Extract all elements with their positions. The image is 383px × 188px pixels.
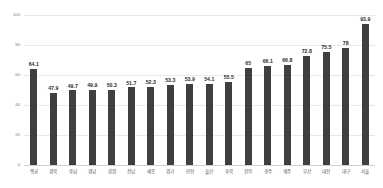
bar[interactable]: 93.9 [362,24,369,165]
bar-group: 53.9인천 [180,15,200,165]
bar-group: 52.3세종 [141,15,161,165]
bar[interactable]: 66.8 [284,65,291,165]
x-axis-category-label: 충남 [69,170,77,175]
bar-group: 66.8제주 [278,15,298,165]
bar-group: 65전북 [239,15,259,165]
y-axis-tick-label: 20 [15,133,20,137]
x-axis-category-label: 세종 [147,170,155,175]
bar-value-label: 54.1 [204,77,214,82]
bar[interactable]: 72.8 [303,56,310,165]
bar-value-label: 66.1 [263,59,273,64]
bar-value-label: 66.8 [282,58,292,63]
x-axis-category-label: 서울 [361,170,369,175]
bar-group: 53.3경기 [161,15,181,165]
bar-value-label: 52.3 [146,80,156,85]
bar-group: 66.1광주 [258,15,278,165]
bar-group: 49.9경남 [83,15,103,165]
x-axis-category-label: 경남 [88,170,96,175]
x-axis-category-label: 전남 [127,170,135,175]
bar-value-label: 51.7 [126,81,136,86]
bar-group: 51.7전남 [122,15,142,165]
x-axis-category-label: 강원 [108,170,116,175]
bar-group: 50.3강원 [102,15,122,165]
bar[interactable]: 51.7 [128,87,135,165]
bar[interactable]: 55.5 [225,82,232,165]
bar[interactable]: 53.3 [167,85,174,165]
bar[interactable]: 64.1 [30,69,37,165]
bar[interactable]: 49.9 [89,90,96,165]
bar[interactable]: 49.7 [69,90,76,165]
bar[interactable]: 50.3 [108,90,115,165]
x-axis-category-label: 광주 [264,170,272,175]
x-axis-category-label: 대전 [322,170,330,175]
bar[interactable]: 65 [245,68,252,166]
bar-value-label: 55.5 [224,75,234,80]
plot-area: 020406080100 64.1평균47.9경북49.7충남49.9경남50.… [24,15,375,165]
bar-group: 93.9서울 [356,15,376,165]
bar-value-label: 50.3 [107,83,117,88]
bar[interactable]: 78 [342,48,349,165]
bar-value-label: 65 [245,61,251,66]
y-axis-tick-label: 80 [15,43,20,47]
bar-group: 49.7충남 [63,15,83,165]
bar[interactable]: 52.3 [147,87,154,165]
bar-group: 72.8부산 [297,15,317,165]
bar-value-label: 47.9 [48,86,58,91]
bar-value-label: 53.3 [165,78,175,83]
bar-value-label: 53.9 [185,77,195,82]
bar[interactable]: 54.1 [206,84,213,165]
bar[interactable]: 53.9 [186,84,193,165]
bar-value-label: 49.7 [68,84,78,89]
x-axis-category-label: 경기 [166,170,174,175]
bar-group: 75.5대전 [317,15,337,165]
x-axis-category-label: 울산 [205,170,213,175]
x-axis-category-label: 경북 [49,170,57,175]
bar-value-label: 93.9 [360,17,370,22]
y-axis-tick-label: 40 [15,103,20,107]
bar-value-label: 49.9 [87,83,97,88]
bar[interactable]: 75.5 [323,52,330,165]
bar[interactable]: 66.1 [264,66,271,165]
x-axis-category-label: 평균 [30,170,38,175]
bar-value-label: 64.1 [29,62,39,67]
x-axis-category-label: 충북 [225,170,233,175]
y-axis-tick-label: 100 [13,13,20,17]
x-axis-category-label: 제주 [283,170,291,175]
gridline [24,165,375,166]
bar-group: 54.1울산 [200,15,220,165]
bar-group: 78대구 [336,15,356,165]
x-axis-category-label: 부산 [303,170,311,175]
x-axis-category-label: 인천 [186,170,194,175]
bar-group: 55.5충북 [219,15,239,165]
bar-value-label: 75.5 [321,45,331,50]
bar-chart: 020406080100 64.1평균47.9경북49.7충남49.9경남50.… [0,0,383,188]
x-axis-category-label: 대구 [342,170,350,175]
y-axis-tick-label: 60 [15,73,20,77]
bar[interactable]: 47.9 [50,93,57,165]
y-axis-tick-label: 0 [18,163,20,167]
bar-group: 47.9경북 [44,15,64,165]
x-axis-category-label: 전북 [244,170,252,175]
bar-group: 64.1평균 [24,15,44,165]
bar-value-label: 78 [343,41,349,46]
bar-series: 64.1평균47.9경북49.7충남49.9경남50.3강원51.7전남52.3… [24,15,375,165]
bar-value-label: 72.8 [302,49,312,54]
